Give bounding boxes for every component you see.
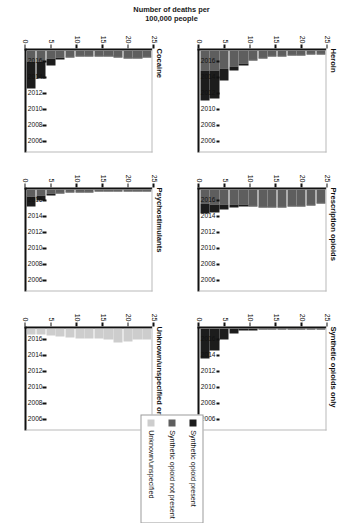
tick-label: 2012	[201, 227, 216, 235]
bar-segment	[75, 328, 84, 338]
bar-segment	[287, 328, 296, 329]
tick-label: 15	[97, 25, 108, 43]
tick-mark	[197, 183, 199, 187]
tick-mark	[326, 44, 328, 48]
bar-segment	[65, 50, 74, 56]
bar-segment	[84, 50, 93, 55]
tick-label: 15	[97, 303, 108, 321]
bar-2015	[219, 328, 229, 429]
bar-2005	[142, 189, 152, 290]
bar-2008	[286, 328, 296, 429]
tick-mark	[127, 322, 129, 326]
bar-segment	[306, 328, 315, 329]
value-axis-tick: 5	[223, 302, 224, 326]
tick-label: 2016	[27, 334, 42, 342]
tick-label: 5	[45, 25, 56, 43]
bar-2010	[267, 50, 277, 151]
bar-2006	[132, 189, 142, 290]
bar-segment	[142, 328, 151, 339]
tick-label: 2012	[27, 88, 42, 96]
tick-mark	[216, 76, 220, 78]
bar-segment	[142, 50, 151, 56]
value-axis-tick: 10	[249, 163, 250, 187]
tick-mark	[24, 44, 26, 48]
bar-2008	[113, 328, 123, 429]
bar-2006	[306, 50, 316, 151]
tick-label: 2012	[201, 366, 216, 374]
bar-segment	[229, 50, 238, 66]
bar-segment	[229, 66, 238, 70]
bar-segment	[267, 50, 276, 55]
tick-label: 2012	[27, 227, 42, 235]
bar-segment	[258, 328, 267, 329]
bar-segment	[238, 50, 247, 63]
value-axis: 0510152025	[24, 163, 153, 187]
legend-swatch-icon	[147, 419, 154, 426]
legend-label: Synthetic opioid present	[188, 430, 197, 507]
bar-segment	[219, 204, 228, 209]
tick-mark	[249, 44, 251, 48]
bar-segment	[248, 59, 257, 60]
legend-label: Synthetic opioid not present	[167, 430, 176, 519]
value-axis-tick: 15	[101, 302, 102, 326]
tick-mark	[216, 60, 220, 62]
panel-heroin: Heroin0510152025200620082010201220142016	[176, 24, 340, 152]
y-axis-label: Number of deaths per 100,000 people	[0, 2, 343, 24]
tick-mark	[43, 231, 47, 233]
panel-title: Synthetic opioids only	[326, 326, 339, 430]
bar-2011	[84, 328, 94, 429]
tick-mark	[275, 44, 277, 48]
bar-segment	[296, 328, 305, 329]
bar-2014	[228, 50, 238, 151]
bar-segment	[287, 189, 296, 205]
tick-label: 20	[122, 164, 133, 182]
bar-2005	[315, 50, 325, 151]
tick-label: 2008	[201, 120, 216, 128]
tick-mark	[127, 44, 129, 48]
value-axis-tick: 10	[249, 24, 250, 48]
panel-grid: Heroin0510152025200620082010201220142016…	[2, 24, 339, 430]
bar-segment	[46, 328, 55, 335]
bar-segment	[75, 55, 84, 56]
bar-2005	[142, 50, 152, 151]
bar-2012	[248, 189, 258, 290]
panel-title: Psychostimulants	[153, 187, 166, 291]
tick-label: 2008	[201, 398, 216, 406]
panel-prescription-opioids: Prescription opioids05101520252006200820…	[176, 163, 340, 291]
tick-label: 2006	[27, 275, 42, 283]
bar-segment	[46, 58, 55, 64]
tick-mark	[43, 140, 47, 142]
tick-mark	[216, 215, 220, 217]
bar-2007	[296, 189, 306, 290]
bar-2014	[55, 189, 65, 290]
bar-segment	[94, 328, 103, 338]
tick-mark	[101, 183, 103, 187]
bar-segment	[306, 189, 315, 204]
axis-area: 0510152025200620082010201220142016	[24, 24, 153, 152]
value-axis-tick: 5	[223, 163, 224, 187]
tick-mark	[43, 279, 47, 281]
legend-column: Synthetic opioid presentSynthetic opioid…	[0, 432, 343, 505]
category-axis: 200620082010201220142016	[24, 48, 46, 152]
legend-unknown-unspecified[interactable]: Unknown/unspecified	[146, 419, 155, 519]
bar-segment	[46, 189, 55, 193]
tick-mark	[216, 92, 220, 94]
tick-mark	[326, 322, 328, 326]
bar-segment	[267, 189, 276, 206]
tick-label: 2014	[201, 350, 216, 358]
bar-segment	[296, 189, 305, 205]
bar-2010	[94, 328, 104, 429]
y-axis-label-line2: 100,000 people	[145, 13, 198, 22]
tick-mark	[75, 322, 77, 326]
category-axis: 200620082010201220142016	[24, 326, 46, 430]
bar-2009	[277, 328, 287, 429]
tick-mark	[43, 370, 47, 372]
tick-label: 10	[244, 164, 255, 182]
value-axis-tick: 10	[75, 24, 76, 48]
bar-segment	[123, 50, 132, 57]
value-axis-tick: 20	[300, 24, 301, 48]
legend-synthetic-not-present[interactable]: Synthetic opioid not present	[167, 419, 176, 519]
bar-segment	[287, 205, 296, 206]
tick-mark	[75, 44, 77, 48]
legend-synthetic-present[interactable]: Synthetic opioid present	[188, 419, 197, 519]
